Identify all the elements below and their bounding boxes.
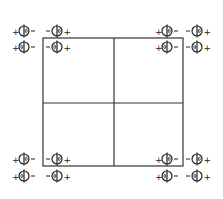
cell-symbol-icon [19,153,29,166]
quadrant-diagram: ++++++++++++++++ [0,0,223,199]
plus-sign: + [12,27,20,37]
plus-sign: + [12,155,20,165]
symbol-row: ++ [12,41,71,54]
cell-symbol-icon [162,41,172,54]
cell-symbol-icon [19,170,29,183]
cell-symbol-icon [162,170,172,183]
cell-symbol-icon [162,25,172,38]
cell-symbol-icon [192,153,202,166]
plus-sign: + [155,155,163,165]
cell-symbol-icon [52,153,62,166]
symbol-row: ++ [155,25,211,38]
cell-symbol-icon [52,41,62,54]
cell-symbol-icon [192,170,202,183]
plus-sign: + [12,172,20,182]
cell-symbol-icon [52,25,62,38]
plus-sign: + [12,43,20,53]
plus-sign: + [155,172,163,182]
plus-sign: + [204,172,212,182]
cell-symbol-icon [19,41,29,54]
symbol-row: ++ [12,25,71,38]
symbol-row: ++ [155,170,211,183]
plus-sign: + [155,43,163,53]
outer-square [43,38,183,166]
plus-sign: + [64,43,72,53]
plus-sign: + [204,155,212,165]
symbol-row: ++ [12,170,71,183]
plus-sign: + [64,155,72,165]
symbol-row: ++ [12,153,71,166]
cell-symbol-icon [19,25,29,38]
plus-sign: + [155,27,163,37]
corner-bottom-left: ++++ [12,153,71,183]
plus-sign: + [204,43,212,53]
cell-symbol-icon [192,41,202,54]
cell-symbol-icon [52,170,62,183]
plus-sign: + [64,172,72,182]
cell-symbol-icon [192,25,202,38]
plus-sign: + [204,27,212,37]
corner-top-left: ++++ [12,25,71,54]
plus-sign: + [64,27,72,37]
divided-square [43,38,183,166]
cell-symbol-icon [162,153,172,166]
